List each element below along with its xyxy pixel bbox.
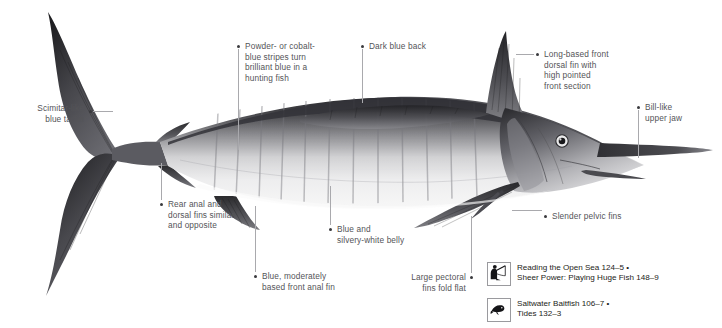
annotation-long-based-front-dorsal-fin: Long-based front dorsal fin with high po… (544, 49, 644, 91)
tail-fin-striations (60, 50, 116, 260)
front-dorsal-fin (486, 31, 532, 128)
angler-rod-icon (487, 262, 511, 286)
bullet-bill-like-upper-jaw (637, 106, 640, 109)
fish-head (500, 108, 643, 193)
annotation-bill-like-upper-jaw: Bill-like upper jaw (645, 102, 715, 123)
body-stripes (214, 97, 477, 205)
bullet-rear-anal-dorsal-fins (160, 203, 163, 206)
pelvic-fin-1 (476, 190, 504, 214)
tail-fin-upper (48, 12, 118, 160)
bullet-front-anal-fin (254, 275, 257, 278)
bullet-scimitar-tailfin (89, 110, 92, 113)
annotation-large-pectoral-fins: Large pectoral fins fold flat (380, 272, 466, 293)
annotation-rear-anal-dorsal-fins: Rear anal and dorsal fins similar and op… (168, 199, 268, 231)
annotation-dark-blue-back: Dark blue back (369, 41, 459, 52)
bullet-powder-cobalt-stripes (237, 45, 240, 48)
leader-powder-cobalt-stripes (238, 49, 239, 150)
marlin-anatomy-diagram: Scimitar-like blue tailfin Powder- or co… (0, 0, 722, 328)
annotation-powder-cobalt-stripes: Powder- or cobalt- blue stripes turn bri… (245, 41, 355, 83)
bullet-dark-blue-back (361, 45, 364, 48)
pectoral-fin-rays (428, 186, 516, 227)
leader-rear-anal-dorsal-fins (161, 163, 162, 200)
rear-dorsal-fin (156, 122, 190, 143)
fish-pupil (559, 138, 566, 145)
gill-cover-line (516, 116, 547, 182)
fish-eye-highlight (559, 138, 561, 140)
leader-belly (330, 186, 331, 225)
mouth-line (560, 160, 600, 169)
annotation-front-anal-fin: Blue, moderately based front anal fin (262, 271, 372, 292)
lower-jaw (581, 170, 646, 179)
front-dorsal-fin-base (300, 105, 490, 129)
caudal-peduncle (112, 142, 168, 166)
leader-scimitar-tailfin (93, 111, 113, 112)
pelvic-fin-2 (471, 192, 500, 219)
bullet-long-based-front-dorsal-fin (536, 53, 539, 56)
bullet-large-pectoral-fins (470, 276, 473, 279)
bullet-belly (329, 228, 332, 231)
annotation-belly: Blue and silvery-white belly (337, 224, 437, 245)
lateral-line (180, 160, 572, 182)
rear-anal-fin (158, 165, 196, 188)
tail-fin-lower (46, 154, 118, 296)
cross-reference-angler[interactable]: Reading the Open Sea 124–5 • Sheer Power… (487, 262, 659, 286)
bill-upper-jaw (597, 143, 713, 157)
fish-body (160, 97, 644, 208)
cross-reference-angler-text: Reading the Open Sea 124–5 • Sheer Power… (517, 262, 659, 284)
dark-blue-back-shading (168, 97, 606, 145)
cross-reference-baitfish[interactable]: Saltwater Baitfish 106–7 • Tides 132–3 (487, 298, 609, 322)
leader-large-pectoral-fins (471, 216, 472, 273)
leader-long-based-front-dorsal-fin (516, 54, 534, 55)
baitfish-icon (487, 298, 511, 322)
leader-bill-like-upper-jaw (638, 110, 639, 158)
annotation-scimitar-tailfin: Scimitar-like blue tailfin (4, 103, 84, 124)
gill-cover (507, 118, 544, 191)
annotation-slender-pelvic-fins: Slender pelvic fins (552, 211, 662, 222)
fish-eye (556, 135, 568, 147)
cross-reference-baitfish-text: Saltwater Baitfish 106–7 • Tides 132–3 (517, 298, 609, 320)
leader-dark-blue-back (362, 49, 363, 103)
leader-slender-pelvic-fins (512, 210, 542, 211)
pectoral-fin (414, 182, 520, 228)
bullet-slender-pelvic-fins (544, 215, 547, 218)
operculum-line (538, 128, 563, 184)
dorsal-fin-rays (330, 42, 520, 124)
